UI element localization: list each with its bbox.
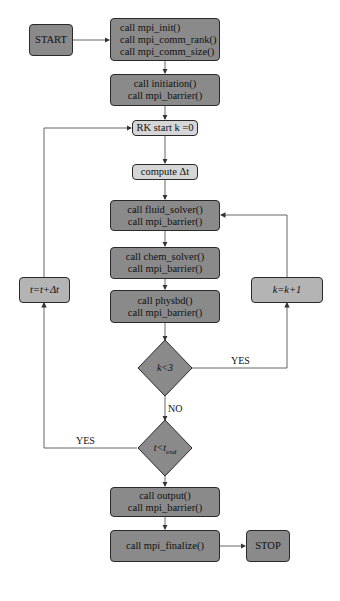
line-barrier: call mpi_barrier() <box>128 90 202 102</box>
compute-dt-node: compute Δt <box>132 164 198 180</box>
no-label-k: NO <box>168 403 182 414</box>
line-barrier: call mpi_barrier() <box>128 263 202 275</box>
line-output: call output() <box>139 490 191 502</box>
mpi-init-block: call mpi_init() call mpi_comm_rank() cal… <box>110 18 220 61</box>
compute-dt-label: compute Δt <box>141 166 189 178</box>
rk-start-label: RK start k =0 <box>137 122 194 134</box>
fluid-solver-block: call fluid_solver() call mpi_barrier() <box>110 200 220 231</box>
decision-k-label: k<3 <box>145 362 185 373</box>
stop-node: STOP <box>246 530 290 562</box>
line-barrier: call mpi_barrier() <box>128 307 202 319</box>
finalize-block: call mpi_finalize() <box>110 530 220 562</box>
line-finalize: call mpi_finalize() <box>126 540 204 552</box>
yes-label-t: YES <box>76 435 95 446</box>
yes-label-k: YES <box>231 355 250 366</box>
line-barrier: call mpi_barrier() <box>128 216 202 228</box>
line-mpi-comm-size: call mpi_comm_size() <box>120 46 214 58</box>
output-block: call output() call mpi_barrier() <box>110 487 220 517</box>
k-increment-label: k=k+1 <box>273 284 302 296</box>
decision-t-main: t<t <box>154 442 166 453</box>
start-label: START <box>35 34 67 46</box>
t-increment-node: t=t+Δt <box>19 277 70 303</box>
initiation-block: call initiation() call mpi_barrier() <box>110 74 220 106</box>
chem-solver-block: call chem_solver() call mpi_barrier() <box>110 247 220 279</box>
line-mpi-init: call mpi_init() <box>120 22 180 34</box>
line-barrier: call mpi_barrier() <box>128 502 202 514</box>
line-initiation: call initiation() <box>134 78 197 90</box>
decision-t-sub: end <box>166 448 176 456</box>
decision-k-text: k<3 <box>157 362 173 373</box>
t-increment-label: t=t+Δt <box>30 284 59 296</box>
line-physbd: call physbd() <box>137 295 192 307</box>
k-increment-node: k=k+1 <box>251 277 323 303</box>
stop-label: STOP <box>255 540 281 552</box>
start-node: START <box>29 24 73 56</box>
decision-t-label: t<tend <box>145 442 185 456</box>
line-fluid-solver: call fluid_solver() <box>127 204 203 216</box>
line-mpi-comm-rank: call mpi_comm_rank() <box>120 34 217 46</box>
rk-start-node: RK start k =0 <box>132 120 198 136</box>
physbd-block: call physbd() call mpi_barrier() <box>110 290 220 323</box>
line-chem-solver: call chem_solver() <box>126 251 204 263</box>
